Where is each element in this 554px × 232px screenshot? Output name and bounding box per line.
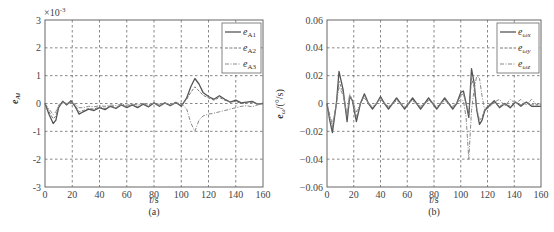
y-tick-label: 0.02 [306, 70, 324, 81]
y-axis-label: eAi [9, 93, 22, 104]
x-tick-label: 40 [95, 189, 105, 200]
y-tick-label: 0 [318, 98, 323, 109]
figure: -3-2-10123 020406080100120140160 ×10-3 e… [0, 0, 554, 232]
legend: eωxeωyeωz [497, 23, 539, 73]
y-tick-label: 0.04 [306, 42, 324, 53]
x-tick-label: 140 [507, 189, 522, 200]
x-tick-label: 100 [174, 189, 189, 200]
x-axis-label: t/s [429, 194, 439, 205]
y-tick-label: 0.06 [306, 15, 324, 26]
x-tick-label: 120 [201, 189, 216, 200]
x-tick-label: 0 [325, 189, 330, 200]
y-tick-label: 0 [36, 98, 41, 109]
legend: eA1eA2eA3 [222, 23, 261, 73]
x-tick-label: 160 [534, 189, 549, 200]
x-axis-label: t/s [149, 194, 159, 205]
y-axis-label: eω/(°/s) [274, 89, 287, 119]
y-tick-label: 1 [36, 70, 41, 81]
chart-panel-a: -3-2-10123 020406080100120140160 ×10-3 e… [9, 6, 271, 218]
y-tick-label: −0.06 [300, 182, 323, 193]
y-tick-label: -3 [33, 182, 41, 193]
x-tick-label: 160 [256, 189, 271, 200]
x-tick-label: 20 [349, 189, 359, 200]
chart-panel-b: −0.06−0.04−0.0200.020.040.06 02040608010… [274, 15, 549, 219]
y-tick-labels: -3-2-10123 [33, 15, 41, 193]
panel-caption: (a) [148, 206, 159, 218]
x-tick-label: 120 [480, 189, 495, 200]
panel-caption: (b) [428, 206, 440, 218]
y-tick-label: −0.02 [300, 126, 323, 137]
x-tick-label: 60 [402, 189, 412, 200]
x-tick-label: 20 [67, 189, 77, 200]
y-tick-label: −0.04 [300, 154, 323, 165]
x-tick-label: 140 [228, 189, 243, 200]
x-tick-label: 0 [43, 189, 48, 200]
y-tick-label: 2 [36, 42, 41, 53]
y-tick-label: -2 [33, 154, 41, 165]
y-multiplier: ×10-3 [44, 6, 66, 18]
x-tick-label: 100 [453, 189, 468, 200]
x-tick-label: 60 [122, 189, 132, 200]
y-tick-label: -1 [33, 126, 41, 137]
y-tick-label: 3 [36, 15, 41, 26]
y-tick-labels: −0.06−0.04−0.0200.020.040.06 [300, 15, 323, 193]
x-tick-label: 40 [376, 189, 386, 200]
